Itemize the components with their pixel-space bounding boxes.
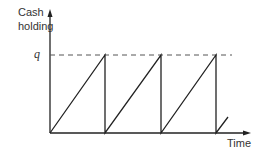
x-axis-label: Time	[227, 137, 251, 150]
y-axis-arrow-icon	[48, 9, 53, 17]
cash-holding-series	[50, 55, 228, 133]
x-axis-arrow-icon	[243, 131, 251, 136]
q-tick-label: q	[34, 48, 40, 61]
y-axis-label-line1: Cash	[18, 6, 44, 19]
y-axis-label-line2: holding	[18, 20, 53, 33]
